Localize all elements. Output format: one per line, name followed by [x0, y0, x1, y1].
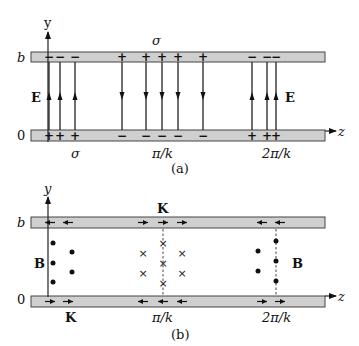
top-charge: +	[141, 50, 151, 64]
field-out-of-page-dot	[51, 241, 56, 246]
field-out-of-page-dot	[70, 250, 75, 255]
field-out-of-page-dot	[274, 259, 279, 264]
bottom-charge: −	[141, 129, 151, 143]
bottom-charge: −	[157, 129, 167, 143]
bottom-charge: +	[271, 129, 281, 143]
y-axis-label-b: y	[43, 181, 52, 196]
bottom-charge: −	[198, 129, 208, 143]
top-charge: −	[55, 50, 65, 64]
field-label-e-right: E	[285, 90, 295, 105]
z-axis-label-a: z	[337, 124, 345, 139]
field-into-page-cross: ×	[138, 267, 147, 280]
field-into-page-cross: ×	[177, 247, 186, 260]
field-out-of-page-dot	[256, 249, 261, 254]
tick-label-pi-over-k-b: π/k	[151, 310, 173, 325]
top-charge: −	[271, 50, 281, 64]
field-lines-a	[47, 62, 279, 130]
bottom-charge: +	[247, 129, 257, 143]
field-out-of-page-dot	[70, 270, 75, 275]
arrow-down-icon	[160, 92, 165, 100]
bottom-charge: +	[70, 129, 80, 143]
arrow-up-icon	[73, 92, 78, 100]
field-into-page-cross: ×	[158, 277, 167, 290]
arrow-up-icon	[58, 92, 63, 100]
top-charge: −	[70, 50, 80, 64]
z-axis-label-b: z	[337, 289, 345, 304]
sigma-top-label: σ	[152, 33, 162, 48]
arrow-down-icon	[201, 92, 206, 100]
bottom-charge: −	[117, 129, 127, 143]
top-charge: +	[173, 50, 183, 64]
top-charge: −	[44, 50, 54, 64]
top-charge: +	[157, 50, 167, 64]
field-out-of-page-dot	[51, 280, 56, 285]
current-label-k-bottom: K	[65, 310, 77, 325]
arrow-down-icon	[176, 92, 181, 100]
arrow-up-icon	[250, 92, 255, 100]
bottom-charge: −	[173, 129, 183, 143]
bottom-charge: +	[44, 129, 54, 143]
field-into-page-cross: ×	[177, 267, 186, 280]
field-label-e-left: E	[31, 90, 41, 105]
field-into-page-cross: ×	[158, 257, 167, 270]
top-charge: +	[117, 50, 127, 64]
top-charge: +	[198, 50, 208, 64]
tick-label-2pi-over-k-b: 2π/k	[261, 310, 291, 325]
current-label-k-top: K	[157, 201, 169, 216]
caption-a: (a)	[171, 161, 189, 176]
top-charge: −	[247, 50, 257, 64]
field-out-of-page-dot	[256, 269, 261, 274]
field-out-of-page-dot	[274, 279, 279, 284]
arrow-up-icon	[265, 92, 270, 100]
bottom-charge: +	[55, 129, 65, 143]
y-axis-label-a: y	[43, 15, 52, 30]
tick-label-pi-over-k-a: π/k	[151, 146, 173, 161]
sigma-bottom-label: σ	[71, 146, 81, 161]
panel-a: y z b 0 −+−+−++−+−+−+−+−−+−+−+ E E σ σ π…	[17, 15, 345, 176]
field-into-page-cross: ×	[138, 247, 147, 260]
arrow-down-icon	[120, 92, 125, 100]
level-b-label-b: b	[17, 215, 25, 230]
field-label-b-left: B	[34, 256, 45, 271]
level-0-label-a: 0	[17, 128, 25, 143]
level-0-label-b: 0	[17, 292, 25, 307]
field-into-page-cross: ×	[158, 237, 167, 250]
panel-b: y z b 0 ××××××× K K B B π/k 2π/k (b)	[17, 181, 345, 342]
tick-label-2pi-over-k-a: 2π/k	[261, 146, 291, 161]
field-label-b-right: B	[292, 256, 303, 271]
waveguide-field-diagram: y z b 0 −+−+−++−+−+−+−+−−+−+−+ E E σ σ π…	[0, 0, 359, 346]
field-out-of-page-dot	[274, 239, 279, 244]
arrow-up-icon	[274, 92, 279, 100]
arrow-down-icon	[144, 92, 149, 100]
level-b-label-a: b	[17, 50, 25, 65]
field-out-of-page-dot	[51, 261, 56, 266]
arrow-up-icon	[47, 92, 52, 100]
magnetic-field-symbols: ×××××××	[51, 237, 279, 290]
caption-b: (b)	[171, 327, 189, 342]
